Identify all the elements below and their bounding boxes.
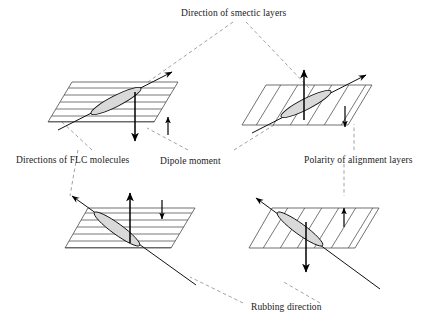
- top-right-molecule: [279, 86, 334, 121]
- bottom-right-smectic-layers: [242, 201, 377, 255]
- bottom-right-panel: [242, 198, 380, 289]
- leader-smectic-to-top-right: [246, 22, 309, 88]
- label-rubbing-direction: Rubbing direction: [251, 303, 322, 313]
- top-right-panel: [235, 70, 372, 133]
- leader-rubbing-to-bottom-right: [282, 281, 320, 303]
- top-left-panel: [40, 72, 190, 141]
- bottom-left-panel: [56, 193, 206, 285]
- flc-alignment-figure: Direction of smectic layers Directions o…: [0, 0, 438, 329]
- leader-dipole-to-top-right: [234, 125, 274, 150]
- bottom-left-molecule: [91, 208, 143, 250]
- leader-smectic-to-top-left: [148, 22, 233, 82]
- label-flc-molecules: Directions of FLC molecules: [16, 156, 129, 166]
- label-dipole-moment: Dipole moment: [160, 157, 221, 167]
- label-polarity-alignment: Polarity of alignment layers: [304, 156, 413, 166]
- leader-rubbing-to-bottom-left: [190, 277, 243, 303]
- label-smectic-layers: Direction of smectic layers: [181, 9, 286, 19]
